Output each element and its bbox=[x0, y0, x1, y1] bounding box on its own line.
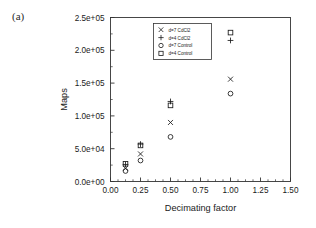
x-tick-label: 1.25 bbox=[253, 186, 269, 195]
x-tick-label: 0.75 bbox=[193, 186, 209, 195]
figure-panel: (a) 0.000.250.500.751.001.251.500.0e+005… bbox=[0, 0, 316, 228]
series-x bbox=[123, 77, 233, 171]
data-point bbox=[168, 135, 173, 140]
data-point bbox=[123, 169, 128, 174]
data-point bbox=[138, 151, 143, 156]
x-tick-label: 0.25 bbox=[133, 186, 149, 195]
y-tick-label: 1.5e+05 bbox=[75, 79, 105, 88]
x-tick-label: 0.00 bbox=[103, 186, 119, 195]
data-point bbox=[228, 38, 234, 44]
x-axis-title: Decimating factor bbox=[165, 203, 237, 213]
y-tick-label: 0.0e+00 bbox=[75, 178, 105, 187]
scatter-plot: 0.000.250.500.751.001.251.500.0e+005.0e+… bbox=[0, 0, 316, 228]
data-point bbox=[228, 77, 233, 82]
data-point bbox=[228, 91, 233, 96]
x-tick-label: 1.00 bbox=[223, 186, 239, 195]
y-tick-label: 1.0e+05 bbox=[75, 112, 105, 121]
data-point bbox=[228, 30, 233, 35]
y-tick-label: 5.0e+04 bbox=[75, 145, 105, 154]
legend-label: d=7 CdCl2 bbox=[169, 28, 191, 33]
y-axis-title: Maps bbox=[59, 88, 69, 111]
x-tick-label: 0.50 bbox=[163, 186, 179, 195]
y-tick-label: 2.5e+05 bbox=[75, 14, 105, 23]
panel-label: (a) bbox=[12, 10, 24, 22]
y-tick-label: 2.0e+05 bbox=[75, 46, 105, 55]
series-circle bbox=[123, 91, 233, 173]
x-tick-label: 1.50 bbox=[283, 186, 299, 195]
legend: d=7 CdCl2d=4 CdCl2d=7 Controld=4 Control bbox=[154, 24, 212, 60]
legend-label: d=7 Control bbox=[169, 43, 193, 48]
data-point bbox=[168, 120, 173, 125]
data-point bbox=[138, 158, 143, 163]
legend-label: d=4 CdCl2 bbox=[169, 36, 191, 41]
legend-label: d=4 Control bbox=[169, 51, 193, 56]
